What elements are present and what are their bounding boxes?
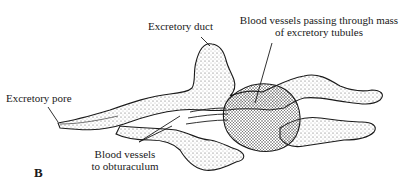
- label-line: to obturaculum: [90, 160, 160, 172]
- panel-letter: B: [34, 165, 43, 181]
- label-excretory-duct: Excretory duct: [148, 20, 213, 32]
- label-blood-vessels-mass: Blood vessels passing through mass of ex…: [234, 14, 404, 38]
- label-line: Blood vessels passing through mass: [234, 14, 404, 26]
- label-line: of excretory tubules: [234, 26, 404, 38]
- label-excretory-pore: Excretory pore: [6, 92, 72, 104]
- label-blood-vessels-obturaculum: Blood vessels to obturaculum: [90, 148, 160, 172]
- excretory-duct-shape: [58, 44, 382, 130]
- label-line: Blood vessels: [90, 148, 160, 160]
- excretory-tubule-mass: [223, 84, 300, 152]
